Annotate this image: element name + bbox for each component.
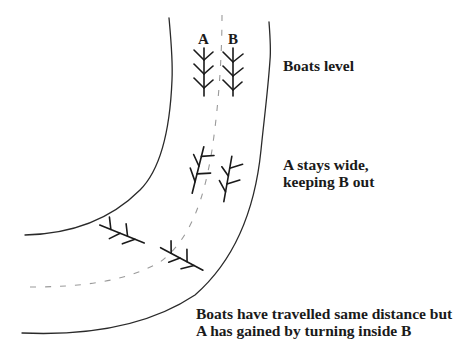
boat-a-level-icon xyxy=(194,48,213,96)
boat-b-wide-icon xyxy=(216,155,244,204)
boat-label-a: A xyxy=(198,32,209,47)
river-bank-inner xyxy=(25,18,172,235)
caption-line: A has gained by turning inside B xyxy=(196,322,452,339)
caption-line: Boats level xyxy=(283,57,354,74)
caption-boats-level: Boats level xyxy=(283,57,354,74)
caption-line: Boats have travelled same distance but xyxy=(196,305,452,322)
boat-label-b: B xyxy=(228,32,238,47)
boat-b-level-icon xyxy=(223,48,243,96)
caption-a-stays-wide: A stays wide, keeping B out xyxy=(283,156,374,190)
boat-b-end-icon xyxy=(156,238,208,278)
dashed-center-line xyxy=(30,15,222,287)
caption-distance-gained: Boats have travelled same distance but A… xyxy=(196,305,452,339)
caption-line: keeping B out xyxy=(283,173,374,190)
caption-line: A stays wide, xyxy=(283,156,374,173)
boat-a-end-icon xyxy=(96,215,148,252)
